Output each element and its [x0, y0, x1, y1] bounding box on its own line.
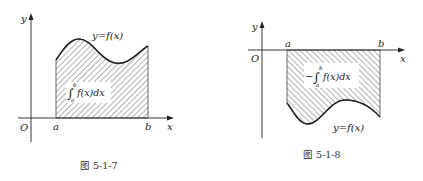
a-label: a	[285, 38, 291, 49]
curve-label: y=f(x)	[91, 30, 123, 41]
x-axis-arrow-icon	[398, 48, 405, 53]
integral-lower-limit: a	[316, 82, 319, 88]
diagram-canvas: y x O a b y=f(x) ∫ b a f(x)dx 图 5-1-7 y …	[0, 0, 423, 181]
y-axis-label: y	[251, 21, 258, 32]
x-axis-arrow-icon	[167, 116, 174, 121]
figure-caption: 图 5-1-7	[80, 160, 118, 171]
y-axis-arrow-icon	[260, 21, 265, 28]
y-axis-label: y	[20, 13, 27, 24]
b-label: b	[378, 38, 384, 49]
integral-label: f(x)dx	[322, 71, 351, 82]
origin-label: O	[20, 122, 28, 133]
area-region-positive	[56, 39, 148, 118]
y-axis-arrow-icon	[29, 13, 34, 20]
figure-5-1-8: y x O a b y=f(x) − ∫ b a f(x)dx 图 5-1-8	[248, 21, 406, 160]
curve-label: y=f(x)	[332, 122, 364, 133]
b-label: b	[145, 121, 151, 132]
integral-lower-limit: a	[71, 97, 74, 103]
integral-label: f(x)dx	[76, 87, 105, 98]
a-label: a	[53, 121, 59, 132]
origin-label: O	[251, 53, 259, 64]
x-axis-label: x	[400, 53, 406, 64]
figure-5-1-7: y x O a b y=f(x) ∫ b a f(x)dx 图 5-1-7	[18, 13, 174, 171]
x-axis-label: x	[167, 121, 173, 132]
figure-caption: 图 5-1-8	[303, 149, 341, 160]
